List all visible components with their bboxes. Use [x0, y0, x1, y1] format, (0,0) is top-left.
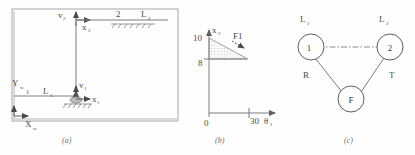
panel-b-force-arrow	[232, 41, 244, 48]
panel-b-caption: (b)	[215, 136, 225, 145]
panel-c: 1 2 F L 1 L 2 R T (c)	[298, 14, 403, 145]
figure-svg: Y w X w 1 L 1	[0, 0, 415, 155]
figure-container: Y w X w 1 L 1	[0, 0, 415, 155]
global-y-label: Y	[12, 78, 19, 88]
panel-c-label-l1-sub: 1	[307, 21, 310, 26]
panel-c-label-l2-sub: 2	[386, 21, 389, 26]
joint-2-x-label: x	[82, 22, 87, 32]
joint-1-v-sub: 1	[84, 86, 87, 91]
link-1-length-label: L	[43, 86, 49, 96]
joint-2-x-sub: 2	[88, 28, 91, 33]
panel-b-response-triangle	[209, 38, 248, 59]
node-1-label: 1	[307, 43, 312, 53]
joint-1-x-sub: 1	[97, 100, 100, 105]
global-y-sublabel: w	[20, 85, 24, 90]
link-1-number: 1	[26, 88, 29, 95]
panel-b-ytick-8: 8	[198, 58, 203, 68]
panel-c-caption: (c)	[344, 136, 353, 145]
panel-a-caption: (a)	[62, 136, 72, 145]
panel-b-force-label: F1	[233, 31, 243, 41]
panel-a-frame	[12, 9, 178, 121]
global-x-sublabel: w	[33, 126, 37, 131]
panel-b: 10 8 x 2 F1 0 30 θ 1 (b)	[193, 25, 275, 145]
joint-1-ground-hatching	[63, 104, 91, 108]
panel-b-xtick-0: 0	[204, 118, 209, 128]
edge-t-line	[361, 58, 384, 92]
panel-b-y-axis-sub: 2	[218, 31, 221, 36]
edge-t-label: T	[389, 70, 395, 80]
panel-b-x-axis-sub: 1	[270, 122, 273, 127]
link-2-number: 2	[116, 9, 121, 19]
panel-b-ytick-10: 10	[193, 33, 203, 43]
panel-c-label-l1: L	[300, 14, 306, 24]
panel-c-label-l2: L	[379, 14, 385, 24]
joint-1-pin	[70, 97, 82, 103]
node-2-label: 2	[388, 43, 393, 53]
node-f-label: F	[348, 95, 353, 105]
link-2-length-label: L	[141, 9, 147, 19]
panel-a: Y w X w 1 L 1	[12, 9, 178, 145]
link-2-support-hatching	[112, 24, 151, 28]
panel-b-x-axis-label: θ	[264, 116, 268, 126]
joint-2-v-sub: 2	[63, 16, 66, 21]
edge-r-label: R	[303, 70, 309, 80]
panel-b-y-axis-label: x	[212, 25, 217, 35]
panel-b-xtick-30: 30	[250, 116, 260, 126]
edge-r-line	[315, 58, 342, 92]
global-x-label: X	[25, 119, 32, 129]
